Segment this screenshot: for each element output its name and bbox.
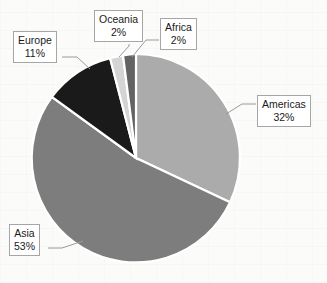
pie-label-oceania-percent: 2% xyxy=(99,26,138,39)
pie-label-asia-category: Asia xyxy=(14,227,35,240)
pie-label-asia[interactable]: Asia 53% xyxy=(9,224,40,256)
pie-label-africa-percent: 2% xyxy=(165,34,192,47)
pie-label-europe-category: Europe xyxy=(18,34,52,47)
pie-label-africa[interactable]: Africa 2% xyxy=(160,18,197,50)
pie-label-americas[interactable]: Americas 32% xyxy=(257,95,311,127)
pie-label-oceania-category: Oceania xyxy=(99,13,138,26)
pie-label-africa-category: Africa xyxy=(165,21,192,34)
pie-label-americas-category: Americas xyxy=(262,98,306,111)
pie-label-asia-percent: 53% xyxy=(14,240,35,253)
pie-label-americas-percent: 32% xyxy=(262,111,306,124)
pie-slices xyxy=(32,54,240,262)
pie-label-europe-percent: 11% xyxy=(18,47,52,60)
pie-label-europe[interactable]: Europe 11% xyxy=(13,31,57,63)
pie-chart-figure: Europe 11% Oceania 2% Africa 2% Americas… xyxy=(0,0,327,283)
pie-label-oceania[interactable]: Oceania 2% xyxy=(94,10,143,42)
